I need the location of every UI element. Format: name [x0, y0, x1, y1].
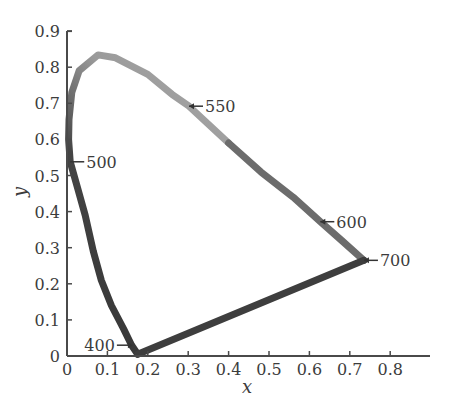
x-tick-label: 0.2 [135, 360, 160, 379]
line-of-purples [138, 260, 364, 354]
x-tick-label: 0.5 [256, 360, 281, 379]
y-tick-label: 0 [50, 347, 60, 366]
wavelength-annotations: 400500550600700 [70, 97, 410, 355]
x-tick-label: 0 [62, 360, 72, 379]
annotation-label: 700 [380, 251, 411, 270]
y-tick-label: 0.5 [35, 167, 60, 186]
spectral-locus-red-segment [229, 143, 364, 260]
y-tick-label: 0.2 [35, 275, 60, 294]
x-tick-label: 0.6 [297, 360, 322, 379]
y-tick-label: 0.3 [35, 239, 60, 258]
x-tick-label: 0.3 [175, 360, 200, 379]
x-tick-label: 0.7 [337, 360, 362, 379]
x-tick-label: 0.1 [95, 360, 120, 379]
y-axis-title: y [9, 186, 30, 198]
y-tick-label: 0.6 [35, 130, 60, 149]
y-tick-label: 0.7 [35, 94, 60, 113]
x-axis-title: x [242, 376, 252, 397]
annotation-label: 550 [205, 97, 236, 116]
chromaticity-chart: 00.10.20.30.40.50.60.70.800.10.20.30.40.… [0, 0, 452, 420]
y-tick-label: 0.4 [35, 203, 60, 222]
x-tick-label: 0.4 [216, 360, 241, 379]
y-tick-label: 0.8 [35, 58, 60, 77]
annotation-label: 600 [336, 213, 367, 232]
axes: 00.10.20.30.40.50.60.70.800.10.20.30.40.… [35, 22, 430, 379]
annotation-700: 700 [364, 251, 411, 270]
y-tick-label: 0.1 [35, 311, 60, 330]
annotation-label: 400 [84, 336, 115, 355]
annotation-label: 500 [86, 153, 117, 172]
y-tick-label: 0.9 [35, 22, 60, 41]
x-tick-label: 0.8 [377, 360, 402, 379]
annotation-500: 500 [70, 153, 117, 172]
